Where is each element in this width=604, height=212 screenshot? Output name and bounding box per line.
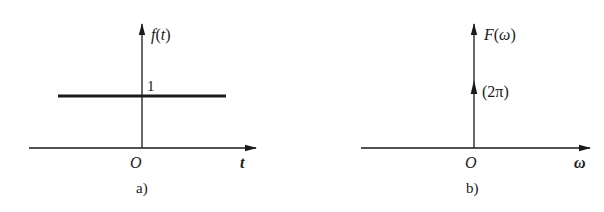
level-label: 1: [147, 78, 155, 94]
origin-label-b: O: [465, 154, 477, 171]
panel-a: f(t) 1 O t a): [29, 24, 256, 197]
impulse-label: (2π): [482, 83, 509, 101]
caption-b: b): [466, 180, 479, 197]
caption-a: a): [136, 180, 148, 197]
panel-b: F(ω) (2π) O ω b): [361, 24, 590, 197]
x-axis-label-b: ω: [574, 154, 586, 171]
impulse-arrowhead: [471, 80, 478, 94]
y-axis-label-b: F(ω): [483, 26, 516, 44]
origin-label-a: O: [130, 154, 142, 171]
fourier-pair-diagram: f(t) 1 O t a) F(ω) (2π) O ω b): [0, 0, 604, 212]
x-axis-label-a: t: [240, 154, 245, 171]
y-axis-label-a: f(t): [151, 26, 171, 44]
